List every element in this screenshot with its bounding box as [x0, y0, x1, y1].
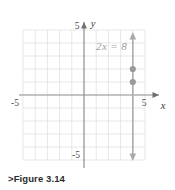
x-axis-label: x — [160, 100, 166, 111]
x-axis-arrow-icon — [153, 92, 160, 98]
data-point — [130, 79, 136, 85]
figure-caption: >Figure 3.14 — [8, 172, 175, 186]
x-axis — [19, 92, 159, 98]
graph-svg: 5 -5 -5 5 y x 2x = 8 — [0, 0, 175, 168]
data-point — [130, 66, 136, 72]
x-tick-label-5: 5 — [142, 98, 147, 108]
graph-line-2x-equals-8 — [130, 32, 137, 161]
y-tick-label-5: 5 — [75, 21, 80, 31]
equation-label: 2x = 8 — [96, 40, 127, 52]
figure-container: 5 -5 -5 5 y x 2x = 8 >Figure 3.14 — [0, 0, 175, 190]
x-tick-label-neg5: -5 — [11, 98, 19, 108]
line-arrow-up-icon — [130, 32, 137, 40]
coordinate-plane: 5 -5 -5 5 y x 2x = 8 — [0, 0, 175, 168]
y-tick-label-neg5: -5 — [72, 150, 80, 160]
y-axis-label: y — [90, 18, 96, 29]
y-axis-arrow-icon — [81, 22, 87, 29]
